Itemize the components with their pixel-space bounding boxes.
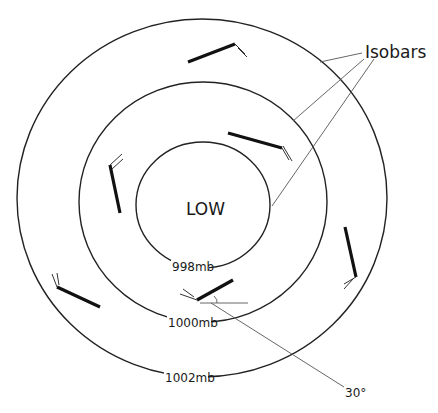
wind-barb-bottom	[180, 280, 233, 300]
leader-line-outer	[320, 53, 362, 62]
svg-text:1002mb: 1002mb	[165, 371, 215, 385]
angle-annotation: 30°	[200, 296, 366, 400]
isobar-label-1002mb: 1002mb	[164, 371, 215, 385]
angle-label: 30°	[345, 386, 366, 400]
angle-arc	[214, 296, 217, 303]
low-pressure-diagram: 998mb 1000mb 1002mb LOW Isobars	[0, 0, 438, 413]
wind-barb-top	[188, 44, 247, 62]
wind-barb-upper-right	[228, 133, 292, 161]
wind-barb-lower-left	[52, 273, 100, 307]
svg-text:1000mb: 1000mb	[168, 316, 218, 330]
wind-barb-right	[344, 227, 356, 289]
isobar-label-1000mb: 1000mb	[167, 316, 218, 330]
isobars-legend-label: Isobars	[365, 42, 426, 62]
low-label: LOW	[186, 199, 225, 219]
svg-text:998mb: 998mb	[172, 260, 214, 274]
isobar-label-998mb: 998mb	[171, 260, 214, 274]
wind-barb-left	[110, 154, 123, 213]
leader-line-inner	[272, 59, 374, 206]
